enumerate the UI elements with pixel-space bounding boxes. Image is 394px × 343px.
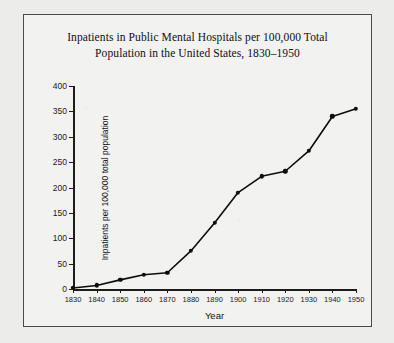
x-tick [215, 289, 216, 293]
x-tick-label: 1900 [230, 295, 247, 304]
x-tick-label: 1870 [159, 295, 176, 304]
x-tick [356, 289, 357, 293]
chart-title-line-2: Population in the United States, 1830–19… [24, 45, 371, 61]
x-axis-label: Year [73, 310, 356, 321]
x-tick [332, 289, 333, 293]
x-tick [238, 289, 239, 293]
y-tick-label: 0 [62, 284, 67, 294]
x-tick-label: 1840 [88, 295, 105, 304]
chart-title: Inpatients in Public Mental Hospitals pe… [24, 29, 371, 61]
x-tick-label: 1940 [324, 295, 341, 304]
x-tick [309, 289, 310, 293]
x-tick-label: 1830 [65, 295, 82, 304]
y-tick-label: 150 [53, 208, 67, 218]
figure-frame: Inpatients in Public Mental Hospitals pe… [23, 14, 372, 327]
x-tick [285, 289, 286, 293]
data-point [354, 107, 358, 111]
x-tick-label: 1910 [253, 295, 270, 304]
x-tick-label: 1920 [277, 295, 294, 304]
y-tick-label: 100 [53, 233, 67, 243]
x-tick-label: 1880 [183, 295, 200, 304]
y-tick-label: 200 [53, 183, 67, 193]
x-tick [120, 289, 121, 293]
x-tick [262, 289, 263, 293]
y-tick-label: 50 [58, 259, 67, 269]
y-tick-label: 300 [53, 132, 67, 142]
x-tick-label: 1860 [135, 295, 152, 304]
y-tick-label: 350 [53, 106, 67, 116]
x-tick-label: 1950 [348, 295, 365, 304]
x-tick-label: 1930 [300, 295, 317, 304]
y-tick-label: 400 [53, 81, 67, 91]
x-tick [97, 289, 98, 293]
x-tick-label: 1890 [206, 295, 223, 304]
x-tick-label: 1850 [112, 295, 129, 304]
plot-area: 050100150200250300350400 183018401850186… [73, 86, 356, 289]
x-tick [144, 289, 145, 293]
series-polyline [73, 109, 356, 288]
y-tick-label: 250 [53, 157, 67, 167]
chart-title-line-1: Inpatients in Public Mental Hospitals pe… [24, 29, 371, 45]
data-series-line [73, 86, 356, 289]
x-tick [167, 289, 168, 293]
x-tick [191, 289, 192, 293]
